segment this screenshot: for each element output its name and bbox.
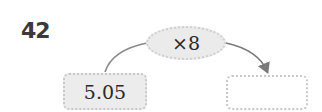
operation-label: ×8 (172, 32, 200, 54)
output-arrow (226, 43, 267, 71)
input-connector-line (105, 43, 147, 72)
operation-ellipse: ×8 (146, 26, 226, 60)
input-value: 5.05 (84, 81, 126, 103)
input-box: 5.05 (63, 73, 147, 110)
answer-box[interactable] (226, 75, 308, 110)
